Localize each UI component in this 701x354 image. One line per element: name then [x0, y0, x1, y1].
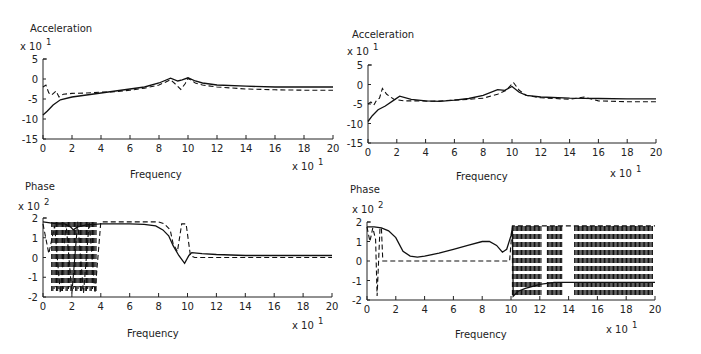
top-right-xtick-label: 16 [592, 147, 605, 158]
top-left-xtick-label: 4 [98, 143, 104, 154]
top-left-xtick-label: 18 [298, 143, 311, 154]
figure-canvas: Acceleration Acceleration Phase Phase x … [0, 0, 701, 354]
top-right-ytick-label: -15 [347, 138, 363, 149]
top-right-xtick-label: 14 [563, 147, 576, 158]
bottom-right-xlabel: Frequency [455, 329, 507, 340]
svg-text:x 10: x 10 [292, 161, 314, 172]
bottom-right-xtick-label: 0 [364, 304, 370, 315]
bottom-left-xtick-label: 18 [297, 301, 310, 312]
top-right-ytick-label: -10 [347, 119, 363, 130]
bottom-right-xtick-label: 4 [421, 304, 427, 315]
svg-text:x 10: x 10 [347, 46, 369, 57]
bottom-right-chart: 02468101214161820210-1-2 [352, 217, 661, 315]
top-right-ytick-label: -5 [353, 99, 363, 110]
top-left-ytick-label: -10 [22, 114, 38, 125]
top-left-ytick-label: 5 [32, 54, 38, 65]
top-right-xtick-label: 8 [480, 147, 486, 158]
top-right-xtick-label: 10 [506, 147, 519, 158]
top-left-xtick-label: 2 [69, 143, 75, 154]
top-left-xtick-label: 0 [40, 143, 46, 154]
bottom-left-xtick-label: 20 [326, 301, 339, 312]
svg-text:1: 1 [318, 157, 323, 167]
svg-text:1: 1 [632, 320, 637, 330]
svg-text:x 10: x 10 [606, 324, 628, 335]
top-left-xtick-label: 8 [156, 143, 162, 154]
svg-text:x 10: x 10 [610, 168, 632, 179]
bottom-right-xtick-label: 8 [479, 304, 485, 315]
top-left-xtick-label: 10 [182, 143, 195, 154]
bottom-left-y-multiplier: x 10 2 [18, 197, 49, 212]
plot-area-group: 0246810121416182050-5-10-150246810121416… [22, 54, 663, 315]
bottom-right-title: Phase [350, 184, 380, 195]
top-left-y-multiplier: x 10 1 [20, 37, 51, 52]
bottom-right-ytick-label: 1 [356, 237, 362, 248]
svg-text:1: 1 [318, 316, 323, 326]
bottom-left-ytick-label: 0 [32, 253, 38, 264]
bottom-left-xtick-label: 14 [239, 301, 252, 312]
bottom-left-xtick-label: 4 [98, 301, 104, 312]
top-right-axes [368, 65, 656, 143]
top-right-xlabel: Frequency [456, 171, 508, 182]
bottom-right-xtick-label: 6 [450, 304, 456, 315]
svg-text:1: 1 [636, 164, 641, 174]
bottom-left-chart: 02468101214161820210-1-2 [28, 213, 338, 312]
svg-text:x 10: x 10 [292, 320, 314, 331]
top-right-chart: 0246810121416182050-5-10-15 [347, 60, 663, 158]
bottom-right-ytick-label: -2 [352, 295, 362, 306]
bottom-left-xtick-label: 16 [268, 301, 281, 312]
svg-text:2: 2 [44, 197, 49, 207]
top-left-x-multiplier: x 10 1 [292, 157, 323, 172]
top-left-series-solid [43, 78, 333, 115]
svg-text:x 10: x 10 [18, 201, 40, 212]
bottom-right-ytick-label: 2 [356, 217, 362, 228]
bottom-right-xtick-label: 10 [505, 304, 518, 315]
bottom-left-ytick-label: -2 [28, 292, 38, 303]
svg-text:x 10: x 10 [352, 204, 374, 215]
bottom-left-xtick-label: 0 [40, 301, 46, 312]
bottom-left-title: Phase [25, 181, 55, 192]
top-left-ytick-label: -15 [22, 134, 38, 145]
top-right-series-solid [368, 87, 656, 122]
top-left-chart: 0246810121416182050-5-10-15 [22, 54, 340, 154]
bottom-right-x-multiplier: x 10 1 [606, 320, 637, 335]
bottom-left-xtick-label: 6 [127, 301, 133, 312]
bottom-left-ytick-label: 2 [32, 213, 38, 224]
top-left-xtick-label: 12 [211, 143, 224, 154]
top-left-ytick-label: -5 [28, 94, 38, 105]
top-left-xtick-label: 20 [327, 143, 340, 154]
bottom-left-xtick-label: 8 [155, 301, 161, 312]
top-right-xtick-label: 4 [422, 147, 428, 158]
bottom-right-xtick-label: 16 [591, 304, 604, 315]
bottom-right-xtick-label: 2 [393, 304, 399, 315]
top-left-xtick-label: 16 [269, 143, 282, 154]
bottom-right-ytick-label: 0 [356, 256, 362, 267]
bottom-right-y-multiplier: x 10 2 [352, 200, 383, 215]
top-right-y-multiplier: x 10 1 [347, 42, 378, 57]
bottom-right-xtick-label: 12 [533, 304, 546, 315]
bottom-left-xtick-label: 10 [181, 301, 194, 312]
top-right-ytick-label: 5 [357, 60, 363, 71]
top-left-xlabel: Frequency [130, 169, 182, 180]
bottom-right-xtick-label: 14 [562, 304, 575, 315]
bottom-left-xlabel: Frequency [127, 328, 179, 339]
bottom-left-ytick-label: -1 [28, 272, 38, 283]
bottom-right-xtick-label: 20 [649, 304, 662, 315]
top-left-ytick-label: 0 [32, 74, 38, 85]
top-right-xtick-label: 0 [365, 147, 371, 158]
top-right-ytick-label: 0 [357, 80, 363, 91]
top-right-xtick-label: 6 [451, 147, 457, 158]
top-left-xtick-label: 6 [127, 143, 133, 154]
top-right-xtick-label: 12 [534, 147, 547, 158]
top-left-title: Acceleration [30, 23, 92, 34]
svg-text:x 10: x 10 [20, 41, 42, 52]
bottom-left-ytick-label: 1 [32, 233, 38, 244]
bottom-left-x-multiplier: x 10 1 [292, 316, 323, 331]
bottom-right-ytick-label: -1 [352, 276, 362, 287]
svg-text:1: 1 [46, 37, 51, 47]
svg-text:2: 2 [378, 200, 383, 210]
svg-text:1: 1 [373, 42, 378, 52]
top-right-xtick-label: 2 [394, 147, 400, 158]
bottom-left-xtick-label: 2 [69, 301, 75, 312]
bottom-right-xtick-label: 18 [620, 304, 633, 315]
top-right-xtick-label: 18 [621, 147, 634, 158]
